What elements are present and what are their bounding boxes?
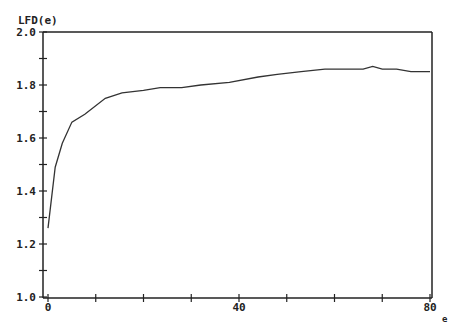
y-tick-label: 1.2 [16, 238, 36, 251]
x-tick-label: 80 [423, 301, 436, 314]
x-axis-label: e [442, 314, 448, 324]
y-tick-label: 1.0 [16, 291, 36, 304]
line-chart: 1.01.21.41.61.82.0 04080 LFD(e) e [0, 0, 458, 335]
y-tick-label: 1.4 [16, 185, 36, 198]
plot-frame [43, 32, 432, 298]
y-tick-label: 1.6 [16, 132, 36, 145]
lfd-curve [48, 66, 430, 228]
x-tick-label: 40 [232, 301, 245, 314]
x-ticks: 04080 [45, 294, 437, 314]
y-axis-label: LFD(e) [18, 14, 58, 27]
y-tick-label: 2.0 [16, 26, 36, 39]
y-tick-label: 1.8 [16, 79, 36, 92]
x-tick-label: 0 [45, 301, 52, 314]
